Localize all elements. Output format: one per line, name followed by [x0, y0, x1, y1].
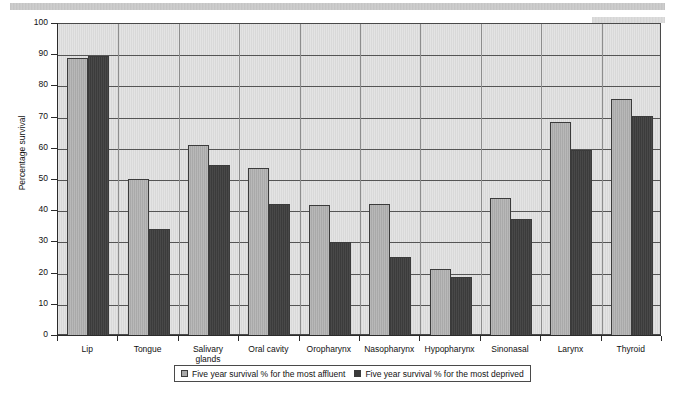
category-separator [481, 24, 482, 334]
y-axis-tick-label: 30 [2, 236, 48, 245]
bar-deprived [149, 229, 170, 336]
x-axis-tick-mark [540, 336, 541, 341]
y-axis-tick-label: 20 [2, 268, 48, 277]
category-separator [360, 24, 361, 334]
x-axis-tick-mark [601, 336, 602, 341]
gridline [58, 86, 660, 87]
y-axis-tick-label: 60 [2, 143, 48, 152]
y-axis-tick-label: 80 [2, 80, 48, 89]
bar-deprived [330, 242, 351, 336]
bar-deprived [88, 56, 109, 336]
x-axis-category-label: Nasopharynx [359, 344, 419, 354]
bar-deprived [451, 277, 472, 336]
bar-deprived [390, 257, 411, 336]
bar-deprived [571, 150, 592, 336]
x-axis-category-label: Oropharynx [299, 344, 359, 354]
x-axis-category-label: Thyroid [601, 344, 661, 354]
bar-affluent [611, 99, 632, 336]
bar-affluent [430, 269, 451, 336]
y-axis-tick-label: 100 [2, 18, 48, 27]
y-axis-tick-mark [51, 148, 57, 149]
y-axis-tick-mark [51, 85, 57, 86]
legend-entry: Five year survival % for the most depriv… [354, 369, 523, 379]
gridline [58, 118, 660, 119]
y-axis-tick-label: 50 [2, 174, 48, 183]
gridline [58, 55, 660, 56]
y-axis-tick-mark [51, 273, 57, 274]
legend-swatch-deprived [354, 370, 361, 377]
bar-deprived [511, 219, 532, 336]
x-axis-tick-mark [661, 336, 662, 341]
bar-deprived [209, 165, 230, 336]
plot-area [57, 23, 661, 335]
bar-chart: Percentage survival 01020304050607080901… [0, 0, 673, 400]
x-axis-category-label: Tongue [117, 344, 177, 354]
x-axis-tick-mark [419, 336, 420, 341]
x-axis-category-label: Sinonasal [480, 344, 540, 354]
legend-entry: Five year survival % for the most afflue… [181, 369, 345, 379]
category-separator [300, 24, 301, 334]
category-separator [118, 24, 119, 334]
y-axis-tick-mark [51, 117, 57, 118]
x-axis-category-label: Salivary glands [178, 344, 238, 364]
legend-label: Five year survival % for the most afflue… [192, 369, 345, 379]
category-separator [239, 24, 240, 334]
y-axis-tick-labels: 0102030405060708090100 [0, 0, 48, 400]
x-axis-tick-mark [359, 336, 360, 341]
bar-affluent [67, 58, 88, 336]
bar-affluent [369, 204, 390, 336]
y-axis-tick-mark [51, 304, 57, 305]
y-axis-tick-label: 0 [2, 330, 48, 339]
y-axis-line [57, 23, 58, 336]
x-axis-category-label: Oral cavity [238, 344, 298, 354]
y-axis-tick-mark [51, 23, 57, 24]
bar-affluent [309, 205, 330, 336]
bar-deprived [269, 204, 290, 336]
category-separator [541, 24, 542, 334]
y-axis-tick-mark [51, 210, 57, 211]
x-axis-category-label: Larynx [540, 344, 600, 354]
bar-affluent [248, 168, 269, 336]
category-separator [420, 24, 421, 334]
chart-legend: Five year survival % for the most afflue… [174, 365, 531, 382]
y-axis-tick-label: 10 [2, 299, 48, 308]
y-axis-tick-label: 70 [2, 112, 48, 121]
legend-label: Five year survival % for the most depriv… [365, 369, 523, 379]
bar-affluent [490, 198, 511, 336]
x-axis-tick-mark [178, 336, 179, 341]
x-axis-tick-mark [117, 336, 118, 341]
y-axis-tick-mark [51, 179, 57, 180]
y-axis-tick-label: 90 [2, 49, 48, 58]
x-axis-category-label: Hypopharynx [419, 344, 479, 354]
bar-affluent [128, 179, 149, 336]
category-separator [179, 24, 180, 334]
y-axis-tick-label: 40 [2, 205, 48, 214]
y-axis-tick-mark [51, 241, 57, 242]
x-axis-tick-mark [238, 336, 239, 341]
x-axis-tick-mark [57, 336, 58, 341]
x-axis-tick-mark [299, 336, 300, 341]
y-axis-tick-mark [51, 54, 57, 55]
bar-affluent [550, 122, 571, 336]
bar-deprived [632, 116, 653, 336]
x-axis-category-label: Lip [57, 344, 117, 354]
category-separator [602, 24, 603, 334]
legend-swatch-affluent [181, 370, 188, 377]
x-axis-tick-mark [480, 336, 481, 341]
bar-affluent [188, 145, 209, 336]
